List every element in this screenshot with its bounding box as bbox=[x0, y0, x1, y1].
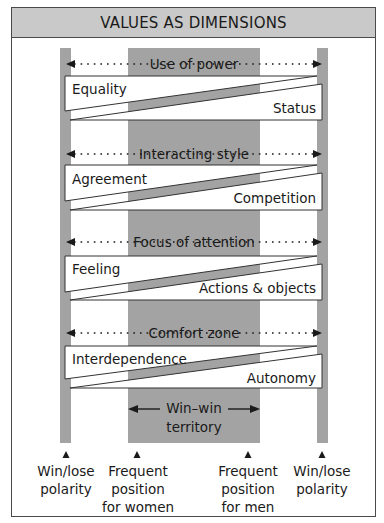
marker-triangle-women bbox=[134, 451, 141, 458]
left-value-1: Equality bbox=[72, 81, 127, 97]
marker-triangle-left-polarity bbox=[63, 451, 70, 458]
left-value-4: Interdependence bbox=[72, 351, 187, 367]
marker-label-men: Frequent position for men bbox=[218, 462, 278, 516]
marker-line: Frequent bbox=[102, 462, 174, 480]
marker-line: for men bbox=[218, 498, 278, 516]
win-win-label: Win–win territory bbox=[166, 399, 221, 437]
marker-triangle-men bbox=[245, 451, 252, 458]
dimension-title-4: Comfort zone bbox=[146, 325, 241, 341]
right-value-4: Autonomy bbox=[247, 370, 316, 386]
win-win-line2: territory bbox=[166, 418, 221, 437]
dimension-title-2: Interacting style bbox=[137, 146, 251, 162]
marker-label-right-polarity: Win/lose polarity bbox=[293, 462, 350, 498]
dimension-name: Interacting style bbox=[137, 146, 251, 162]
marker-line: polarity bbox=[37, 480, 94, 498]
diagram-title-bar: VALUES AS DIMENSIONS bbox=[12, 8, 375, 38]
dimension-title-3: Focus of attention bbox=[131, 234, 257, 250]
right-value-1: Status bbox=[273, 100, 316, 116]
marker-label-left-polarity: Win/lose polarity bbox=[37, 462, 94, 498]
marker-triangle-right-polarity bbox=[319, 451, 326, 458]
dimension-name: Focus of attention bbox=[131, 234, 257, 250]
left-value-2: Agreement bbox=[72, 171, 147, 187]
diagram-graphics bbox=[0, 0, 384, 523]
win-win-line1: Win–win bbox=[166, 399, 221, 418]
diagram-title: VALUES AS DIMENSIONS bbox=[100, 14, 287, 32]
marker-line: Win/lose bbox=[293, 462, 350, 480]
marker-line: Win/lose bbox=[37, 462, 94, 480]
marker-line: position bbox=[218, 480, 278, 498]
marker-line: for women bbox=[102, 498, 174, 516]
dimension-title-1: Use of power bbox=[148, 56, 241, 72]
dimension-name: Use of power bbox=[148, 56, 241, 72]
marker-line: position bbox=[102, 480, 174, 498]
marker-line: polarity bbox=[293, 480, 350, 498]
right-value-2: Competition bbox=[233, 190, 316, 206]
dimension-name: Comfort zone bbox=[146, 325, 241, 341]
marker-line: Frequent bbox=[218, 462, 278, 480]
left-value-3: Feeling bbox=[72, 261, 120, 277]
right-value-3: Actions & objects bbox=[199, 280, 316, 296]
marker-label-women: Frequent position for women bbox=[102, 462, 174, 516]
